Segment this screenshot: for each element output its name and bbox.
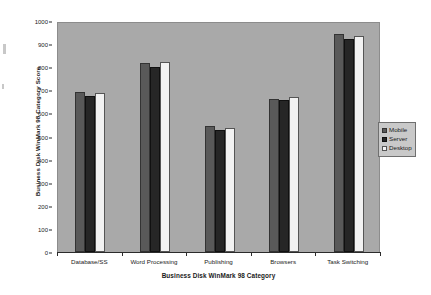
x-axis-tick-label: Task Switching [327,258,368,265]
y-axis-tick-mark [49,253,52,254]
y-axis-tick-label: 900 [38,42,48,48]
bar-mobile [334,34,344,252]
x-axis-title: Business Disk WinMark 98 Category [57,272,380,279]
bar-server [344,39,354,252]
x-axis-line [57,252,381,253]
bar-server [150,67,160,252]
legend-item: Server [382,135,412,144]
y-axis-tick-labels: 01002003004005006007008009001000 [26,22,52,253]
bar-desktop [95,93,105,252]
x-axis-tick-label: Browsers [270,258,296,265]
legend-swatch-mobile [382,128,387,133]
bar-server [215,130,225,252]
x-axis-tick-mark [57,253,58,256]
bar-server [85,96,95,252]
y-axis-tick-label: 0 [45,250,48,256]
y-axis-tick-label: 600 [38,111,48,117]
x-axis-tick-mark [122,253,123,256]
x-axis-tick-labels: Database/SSWord ProcessingPublishingBrow… [57,258,380,270]
plot-inner [58,23,379,252]
plot-area [57,22,380,253]
x-axis-tick-mark [186,253,187,256]
legend-swatch-server [382,137,387,142]
x-axis-tick-mark [251,253,252,256]
y-axis-tick-label: 800 [38,65,48,71]
y-axis-tick-mark [49,206,52,207]
bar-mobile [140,63,150,252]
y-axis-tick-mark [49,45,52,46]
bar-group [334,23,364,252]
x-axis-tick-label: Publishing [204,258,233,265]
y-axis-tick-mark [49,91,52,92]
y-axis-tick-mark [49,114,52,115]
scan-artifact-speck [3,44,6,54]
legend-item: Desktop [382,144,412,153]
y-axis-tick-label: 400 [38,158,48,164]
y-axis-tick-mark [49,229,52,230]
bar-mobile [269,99,279,252]
y-axis-tick-mark [49,160,52,161]
bar-desktop [289,97,299,252]
bar-desktop [225,128,235,252]
y-axis-tick-mark [49,68,52,69]
y-axis-tick-label: 500 [38,135,48,141]
x-axis-tick-mark [380,253,381,256]
bar-desktop [160,62,170,252]
legend-label: Server [389,136,407,142]
y-axis-tick-label: 300 [38,181,48,187]
y-axis-tick-label: 700 [38,88,48,94]
bar-server [279,100,289,252]
legend-item: Mobile [382,126,412,135]
y-axis-tick-label: 200 [38,204,48,210]
bar-desktop [354,36,364,252]
y-axis-tick-mark [49,183,52,184]
x-axis-tick-label: Word Processing [130,258,177,265]
chart-legend: MobileServerDesktop [378,122,416,157]
y-axis-tick-label: 100 [38,227,48,233]
bar-group [140,23,170,252]
scan-artifact-speck [2,84,4,89]
legend-swatch-desktop [382,146,387,151]
bar-group [75,23,105,252]
bar-mobile [205,126,215,252]
bar-chart-figure: Business Disk WinMark 98 Category Score … [0,0,431,295]
bar-group [269,23,299,252]
y-axis-tick-mark [49,22,52,23]
bar-mobile [75,92,85,252]
legend-label: Mobile [389,127,407,133]
bar-group [205,23,235,252]
y-axis-tick-label: 1000 [35,19,48,25]
y-axis-tick-mark [49,137,52,138]
legend-label: Desktop [389,145,412,151]
x-axis-tick-label: Database/SS [71,258,107,265]
x-axis-tick-mark [315,253,316,256]
